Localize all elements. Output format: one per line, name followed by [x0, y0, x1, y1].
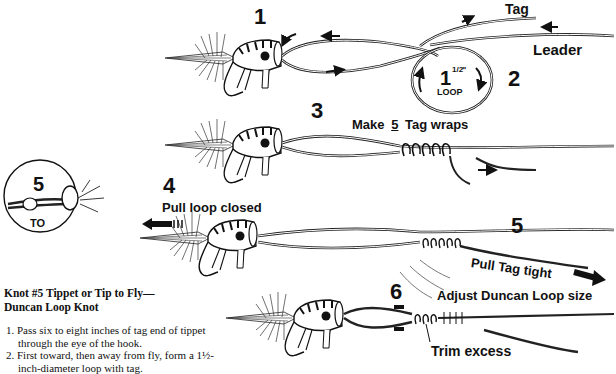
tag-label: Tag — [505, 2, 529, 16]
caption-title-line-2: Duncan Loop Knot — [4, 300, 224, 314]
make-wraps-prefix: Make — [352, 117, 385, 132]
trim-excess-label: Trim excess — [431, 344, 511, 358]
instruction-text: First toward, then away from fly, form a… — [17, 349, 214, 374]
instruction-number: 2. — [6, 349, 14, 361]
instruction-number: 1. — [6, 324, 14, 336]
inset-to-label: TO — [30, 218, 45, 229]
step-4-number: 4 — [163, 175, 175, 197]
instruction-list: 1. Pass six to eight inches of tag end o… — [4, 324, 224, 374]
step-6-number: 6 — [390, 281, 402, 303]
instruction-text: Pass six to eight inches of tag end of t… — [17, 324, 206, 349]
leader-label: Leader — [533, 42, 582, 57]
make-wraps-count: 5 — [388, 117, 401, 132]
loop-size-whole: 1 — [440, 68, 451, 88]
make-wraps-suffix: Tag wraps — [405, 117, 468, 132]
knot-caption: Knot #5 Tippet or Tip to Fly— Duncan Loo… — [4, 286, 224, 374]
pull-loop-closed-label: Pull loop closed — [162, 201, 262, 214]
caption-title-line-1: Knot #5 Tippet or Tip to Fly— — [4, 286, 224, 300]
instruction-item: 2. First toward, then away from fly, for… — [18, 349, 224, 374]
step-1-number: 1 — [254, 6, 266, 28]
loop-size-unit: " — [462, 66, 466, 75]
step-2-number: 2 — [508, 68, 520, 90]
step-3-number: 3 — [311, 100, 323, 122]
step-5-number: 5 — [511, 215, 523, 237]
make-wraps-label: Make 5 Tag wraps — [352, 118, 468, 131]
adjust-loop-label: Adjust Duncan Loop size — [437, 289, 592, 302]
inset-number: 5 — [33, 174, 44, 194]
loop-label: LOOP — [437, 88, 463, 97]
instruction-item: 1. Pass six to eight inches of tag end o… — [18, 324, 224, 349]
